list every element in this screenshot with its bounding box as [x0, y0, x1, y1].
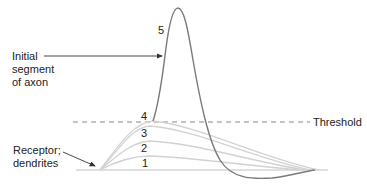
- threshold-label: Threshold: [313, 116, 362, 129]
- initial-segment-label: Initial segment of axon: [12, 50, 54, 89]
- curve-label-2: 2: [141, 142, 147, 154]
- receptor-label: Receptor; dendrites: [13, 144, 61, 170]
- curve-label-4: 4: [141, 110, 147, 122]
- curve-label-3: 3: [141, 127, 147, 139]
- initial-segment-line-3: of axon: [12, 76, 54, 89]
- initial-segment-line-1: Initial: [12, 50, 54, 63]
- receptor-arrow: [63, 152, 95, 166]
- receptor-line-2: dendrites: [13, 157, 61, 170]
- graded-potential-3: [100, 126, 310, 170]
- initial-segment-line-2: segment: [12, 63, 54, 76]
- receptor-line-1: Receptor;: [13, 144, 61, 157]
- curve-label-1: 1: [142, 157, 148, 169]
- graded-potential-2: [100, 141, 305, 170]
- action-potential-5: [153, 8, 315, 178]
- curve-label-5: 5: [158, 24, 164, 36]
